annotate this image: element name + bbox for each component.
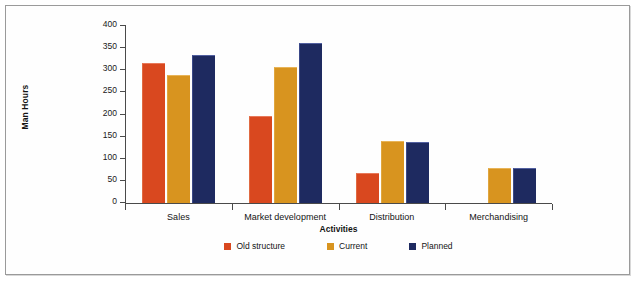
x-axis-category-label: Sales: [167, 212, 190, 222]
bar: [406, 142, 429, 203]
y-tick-label: 400: [91, 19, 117, 29]
y-axis-title: Man Hours: [20, 67, 30, 147]
chart-legend: Old structureCurrentPlanned: [125, 241, 552, 251]
bar: [274, 67, 297, 203]
legend-swatch-icon: [224, 243, 231, 250]
y-axis-line: [125, 26, 126, 204]
y-tick-mark: [120, 47, 126, 48]
y-tick-label: 50: [91, 174, 117, 184]
x-axis-title: Activities: [125, 224, 552, 234]
x-tick-mark: [552, 204, 553, 210]
plot-area: 050100150200250300350400 SalesMarket dev…: [125, 26, 552, 204]
y-tick-mark: [120, 202, 126, 203]
y-tick: 200: [125, 114, 126, 115]
bar: [356, 173, 379, 203]
bar: [513, 168, 536, 203]
y-tick-label: 0: [91, 196, 117, 206]
bar: [381, 141, 404, 203]
y-tick: 300: [125, 69, 126, 70]
y-tick: 0: [125, 202, 126, 203]
y-tick: 350: [125, 47, 126, 48]
y-tick-mark: [120, 136, 126, 137]
y-tick: 50: [125, 180, 126, 181]
bar: [299, 43, 322, 203]
y-tick-mark: [120, 180, 126, 181]
figure-frame: Man Hours 050100150200250300350400 Sales…: [5, 5, 630, 275]
legend-label: Current: [339, 241, 367, 251]
y-tick: 150: [125, 136, 126, 137]
x-tick-mark: [339, 204, 340, 210]
bar-chart: Man Hours 050100150200250300350400 Sales…: [6, 6, 631, 276]
y-tick: 100: [125, 158, 126, 159]
bar: [167, 75, 190, 203]
x-tick-mark: [445, 204, 446, 210]
legend-item: Old structure: [224, 241, 285, 251]
x-axis-category-label: Merchandising: [469, 212, 528, 222]
legend-label: Old structure: [236, 241, 285, 251]
y-tick-mark: [120, 91, 126, 92]
x-tick-mark: [232, 204, 233, 210]
x-tick-mark: [125, 204, 126, 210]
y-tick-mark: [120, 25, 126, 26]
legend-item: Planned: [409, 241, 452, 251]
y-tick: 400: [125, 25, 126, 26]
legend-label: Planned: [421, 241, 452, 251]
legend-swatch-icon: [327, 243, 334, 250]
bar: [249, 116, 272, 203]
y-tick-mark: [120, 69, 126, 70]
x-axis-category-label: Distribution: [369, 212, 414, 222]
y-tick-label: 100: [91, 152, 117, 162]
y-tick-mark: [120, 158, 126, 159]
y-tick-mark: [120, 114, 126, 115]
y-tick-label: 350: [91, 41, 117, 51]
x-axis-category-label: Market development: [244, 212, 326, 222]
bar: [488, 168, 511, 203]
y-tick: 250: [125, 91, 126, 92]
y-tick-label: 200: [91, 108, 117, 118]
y-tick-label: 300: [91, 63, 117, 73]
y-tick-label: 250: [91, 85, 117, 95]
legend-swatch-icon: [409, 243, 416, 250]
legend-item: Current: [327, 241, 367, 251]
bar: [192, 55, 215, 203]
y-tick-label: 150: [91, 130, 117, 140]
bar: [142, 63, 165, 203]
